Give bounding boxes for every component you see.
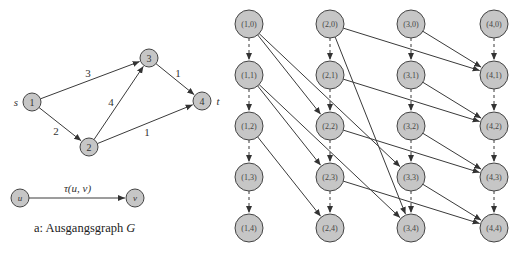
time-node-label: (4,4) (486, 224, 502, 233)
figure-caption: a: Ausgangsgraph G (34, 221, 135, 236)
time-node-label: (4,0) (486, 20, 502, 29)
legend-edge-label: τ(u, v) (64, 182, 91, 195)
edge-weight-label: 2 (53, 125, 59, 137)
time-node-label: (3,2) (403, 122, 419, 131)
edge-legend: τ(u, v)uv (11, 182, 144, 207)
node-label: 4 (200, 96, 205, 107)
caption-symbol: G (126, 221, 135, 235)
time-node-label: (4,2) (486, 122, 502, 131)
time-node-label: (3,4) (403, 224, 419, 233)
time-node-label: (1,0) (241, 20, 257, 29)
time-node-label: (4,3) (486, 173, 502, 182)
time-node-label: (2,0) (322, 20, 338, 29)
time-node-label: (2,2) (322, 122, 338, 131)
travel-edge (258, 86, 321, 165)
time-node-label: (1,1) (241, 71, 257, 80)
caption-prefix: a: Ausgangsgraph (34, 221, 126, 235)
node-label: 3 (147, 53, 152, 64)
edge-weight-label: 1 (175, 67, 181, 79)
time-node-label: (1,2) (241, 122, 257, 131)
terminal-label-s: s (14, 96, 18, 108)
time-node-label: (4,1) (486, 71, 502, 80)
legend-node-u-label: u (18, 193, 23, 203)
edge-weight-label: 3 (85, 67, 91, 79)
terminal-label-t: t (216, 95, 220, 107)
node-label: 2 (87, 142, 92, 153)
node-label: 1 (30, 97, 35, 108)
time-node-label: (2,1) (322, 71, 338, 80)
diagram-canvas: 324111s234t τ(u, v)uv (1,0)(1,1)(1,2)(1,… (0, 0, 518, 254)
edge-1-2 (39, 108, 81, 141)
travel-edge (258, 137, 321, 216)
edge-weight-label: 4 (108, 96, 114, 108)
time-node-label: (2,3) (322, 173, 338, 182)
time-node-label: (1,3) (241, 173, 257, 182)
time-node-label: (2,4) (322, 224, 338, 233)
time-node-label: (3,3) (403, 173, 419, 182)
input-graph-g: 324111s234t (14, 49, 221, 156)
time-expanded-graph: (1,0)(1,1)(1,2)(1,3)(1,4)(2,0)(2,1)(2,2)… (235, 10, 508, 242)
legend-node-v-label: v (133, 193, 137, 203)
time-node-label: (3,0) (403, 20, 419, 29)
time-node-label: (1,4) (241, 224, 257, 233)
time-node-label: (3,1) (403, 71, 419, 80)
edge-2-3 (94, 66, 143, 139)
edge-weight-label: 1 (144, 126, 150, 138)
travel-edge (258, 35, 321, 114)
travel-edge (335, 37, 405, 214)
